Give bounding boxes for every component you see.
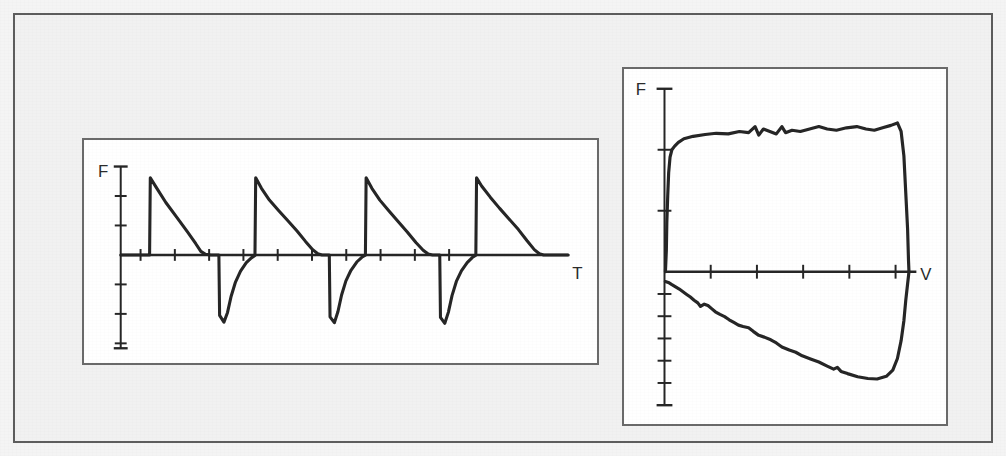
flow-time-traces: [121, 178, 569, 324]
flow-time-axes: [114, 167, 568, 349]
flow-volume-x-axis-label: V: [920, 265, 932, 284]
panel-flow-volume: F V: [622, 67, 948, 426]
figure-outer-frame: F T F V: [13, 13, 993, 443]
flow-time-y-axis-label: F: [98, 162, 108, 181]
flow-volume-y-axis-label: F: [636, 80, 646, 99]
flow-time-plot: F T: [84, 140, 597, 363]
panel-flow-time: F T: [82, 138, 599, 365]
flow-volume-plot: F V: [624, 69, 946, 424]
flow-volume-traces: [665, 123, 909, 379]
figure-container: F T F V: [0, 0, 1006, 456]
flow-time-x-axis-label: T: [572, 265, 582, 284]
